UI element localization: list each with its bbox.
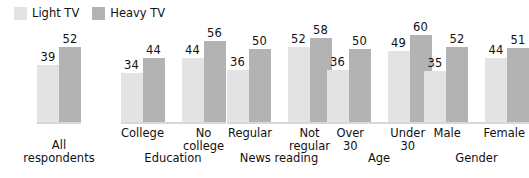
bar-pair: 3552 xyxy=(424,33,468,122)
group-label-line2: respondents xyxy=(0,152,118,165)
bar-light[interactable]: 49 xyxy=(388,37,410,122)
axis-baseline xyxy=(121,122,226,124)
category-label-line1: College xyxy=(121,126,164,140)
category-label-line1: Male xyxy=(434,126,461,140)
bar-value-label: 36 xyxy=(330,56,345,69)
bar-heavy[interactable]: 50 xyxy=(349,35,371,122)
bar-heavy[interactable]: 52 xyxy=(59,33,81,122)
bar-pairs: 3952 xyxy=(0,0,118,122)
bar-pairs: 36505258 xyxy=(228,0,330,122)
category-labels: RegularNotregular xyxy=(228,127,330,152)
bar-rect-light[interactable] xyxy=(227,70,249,122)
category-label: Under30 xyxy=(388,127,429,152)
category-labels: CollegeNocollege xyxy=(118,127,228,152)
group-label: Allrespondents xyxy=(0,139,118,164)
category-label-line1: Regular xyxy=(228,126,272,140)
bar-light[interactable]: 36 xyxy=(227,56,249,122)
bar-rect-light[interactable] xyxy=(388,51,410,122)
bar-light[interactable]: 52 xyxy=(288,33,310,122)
category-label: Male xyxy=(428,127,466,140)
bar-pair: 3952 xyxy=(37,33,81,122)
bar-value-label: 51 xyxy=(511,34,526,47)
bar-value-label: 52 xyxy=(291,33,306,46)
bar-rect-heavy[interactable] xyxy=(446,47,468,122)
group-label-line1: Age xyxy=(368,151,390,165)
bar-value-label: 50 xyxy=(252,35,267,48)
axis-baseline xyxy=(327,122,432,124)
bar-value-label: 44 xyxy=(146,44,161,57)
group-label: Gender xyxy=(428,152,525,165)
category-label-line1: Female xyxy=(483,126,525,140)
bar-value-label: 39 xyxy=(41,51,56,64)
category-label-line1: Under xyxy=(390,126,425,140)
bar-pair: 4451 xyxy=(485,34,529,122)
bar-rect-light[interactable] xyxy=(424,71,446,122)
bar-value-label: 44 xyxy=(185,44,200,57)
bar-heavy[interactable]: 52 xyxy=(446,33,468,122)
category-label-line1: Not xyxy=(299,126,319,140)
group-label-line1: Gender xyxy=(455,151,497,165)
bar-light[interactable]: 36 xyxy=(327,56,349,122)
category-label-line1: No xyxy=(196,126,212,140)
bar-pair: 3650 xyxy=(227,35,271,122)
bar-value-label: 44 xyxy=(489,44,504,57)
bar-heavy[interactable]: 56 xyxy=(204,27,226,122)
bar-value-label: 56 xyxy=(207,27,222,40)
bar-value-label: 52 xyxy=(450,33,465,46)
bar-rect-light[interactable] xyxy=(327,70,349,122)
bar-group: 36505258RegularNotregularNews reading xyxy=(228,0,330,178)
category-label: Over30 xyxy=(330,127,371,152)
bar-value-label: 49 xyxy=(391,37,406,50)
category-label: Nocollege xyxy=(182,127,226,152)
bar-value-label: 52 xyxy=(63,33,78,46)
bar-light[interactable]: 35 xyxy=(424,57,446,122)
bar-pairs: 34444456 xyxy=(118,0,228,122)
group-label: News reading xyxy=(228,152,330,165)
axis-baseline xyxy=(424,122,529,124)
bar-heavy[interactable]: 44 xyxy=(143,44,165,122)
bar-light[interactable]: 44 xyxy=(182,44,204,122)
bar-light[interactable]: 44 xyxy=(485,44,507,122)
bar-light[interactable]: 34 xyxy=(121,59,143,122)
bar-pair: 3444 xyxy=(121,44,165,122)
category-labels: MaleFemale xyxy=(428,127,525,140)
bar-rect-light[interactable] xyxy=(485,58,507,122)
category-label-line1: Over xyxy=(336,126,364,140)
bar-pair: 3650 xyxy=(327,35,371,122)
bar-pairs: 35524451 xyxy=(428,0,525,122)
category-labels: Over30Under30 xyxy=(330,127,428,152)
bar-rect-heavy[interactable] xyxy=(59,47,81,122)
group-label: Age xyxy=(330,152,428,165)
bar-pair: 5258 xyxy=(288,24,332,122)
bar-rect-light[interactable] xyxy=(182,58,204,122)
bar-pair: 4456 xyxy=(182,27,226,122)
bar-rect-heavy[interactable] xyxy=(507,48,529,122)
bar-rect-heavy[interactable] xyxy=(349,49,371,122)
group-label-line1: All xyxy=(52,138,66,152)
bar-value-label: 36 xyxy=(230,56,245,69)
bar-rect-heavy[interactable] xyxy=(143,58,165,122)
category-label: Notregular xyxy=(289,127,330,152)
category-label: Regular xyxy=(228,127,272,152)
bar-rect-light[interactable] xyxy=(121,73,143,122)
bar-group: 36504960Over30Under30Age xyxy=(330,0,428,178)
bar-light[interactable]: 39 xyxy=(37,51,59,122)
bar-group: 35524451MaleFemaleGender xyxy=(428,0,525,178)
bar-value-label: 34 xyxy=(124,59,139,72)
bar-rect-light[interactable] xyxy=(37,65,59,122)
bar-value-label: 35 xyxy=(428,57,443,70)
category-label: Female xyxy=(483,127,525,140)
group-label-line1: News reading xyxy=(240,151,318,165)
category-label-line2: 30 xyxy=(330,140,371,153)
bar-group: 3952Allrespondents xyxy=(0,0,118,178)
bar-rect-heavy[interactable] xyxy=(204,41,226,122)
axis-baseline xyxy=(227,122,332,124)
bar-rect-heavy[interactable] xyxy=(249,49,271,122)
bar-rect-light[interactable] xyxy=(288,47,310,122)
group-label: Education xyxy=(118,152,228,165)
bar-heavy[interactable]: 50 xyxy=(249,35,271,122)
category-label: College xyxy=(121,127,165,152)
bar-value-label: 50 xyxy=(352,35,367,48)
bar-heavy[interactable]: 51 xyxy=(507,34,529,122)
